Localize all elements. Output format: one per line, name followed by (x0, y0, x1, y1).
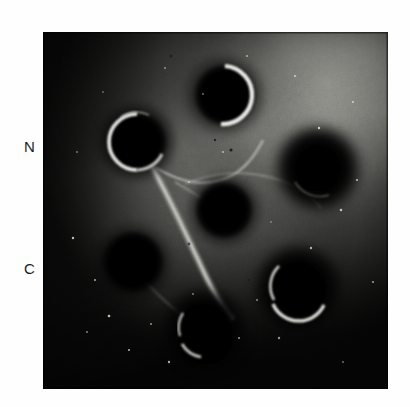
gel-coarse-grain (43, 32, 388, 389)
immunodiffusion-gel-photo (43, 32, 388, 389)
gel-label-n: N (24, 139, 35, 154)
gel-topright-flare (273, 32, 388, 72)
gel-label-c: C (24, 261, 35, 276)
gel-photo-canvas (43, 32, 388, 389)
figure-root: N C (0, 0, 410, 407)
